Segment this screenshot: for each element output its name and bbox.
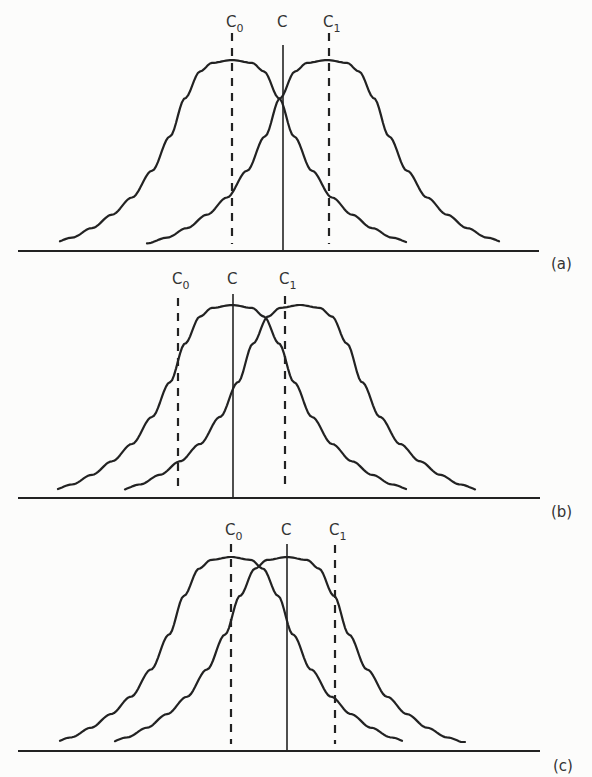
panel-a: C0CC1(a): [18, 13, 572, 273]
panel-tag-a: (a): [551, 255, 572, 273]
panel-tag-c: (c): [553, 757, 573, 775]
c0-label: C0: [226, 13, 243, 35]
signal-distribution-curve: [115, 557, 465, 742]
c0-subscript: 0: [236, 22, 243, 35]
c1-subscript: 1: [333, 22, 340, 35]
panel-tag-b: (b): [551, 503, 572, 521]
c1-label: C1: [279, 270, 296, 292]
c-label: C: [227, 270, 237, 288]
c0-subscript: 0: [182, 279, 189, 292]
signal-distribution-curve: [147, 60, 499, 243]
c-label: C: [277, 13, 287, 31]
c1-subscript: 1: [339, 530, 346, 543]
signal-detection-figure: C0CC1(a) C0CC1(b) C0CC1(c): [0, 0, 592, 777]
c-label: C: [281, 521, 291, 539]
c1-subscript: 1: [289, 279, 296, 292]
panel-b: C0CC1(b): [18, 270, 572, 521]
noise-distribution-curve: [58, 305, 406, 489]
c0-label: C0: [172, 270, 189, 292]
c1-label: C1: [323, 13, 340, 35]
c0-label: C0: [225, 521, 242, 543]
c0-subscript: 0: [235, 530, 242, 543]
panel-c: C0CC1(c): [18, 521, 573, 775]
c1-label: C1: [329, 521, 346, 543]
